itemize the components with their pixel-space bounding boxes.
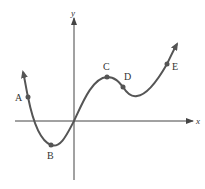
x-axis-label: x xyxy=(195,116,200,126)
point-b-label: B xyxy=(47,150,54,161)
point-e-label: E xyxy=(172,61,178,72)
point-b: B xyxy=(47,143,54,162)
y-axis-label: y xyxy=(70,8,75,18)
point-d: D xyxy=(121,71,132,90)
function-graph: x y A B C D xyxy=(0,0,205,189)
function-curve xyxy=(28,64,167,146)
curve-arrow-left xyxy=(23,72,28,97)
point-a-label: A xyxy=(15,92,23,103)
point-c-label: C xyxy=(103,61,110,72)
point-d-label: D xyxy=(124,71,131,82)
